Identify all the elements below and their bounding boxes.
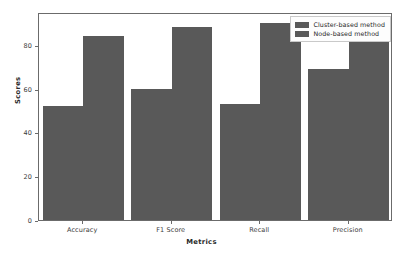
y-tick-label: 40 [2,129,32,137]
y-tick-mark [35,46,38,47]
bar [83,36,124,220]
bar [349,36,390,220]
bar [131,89,172,220]
legend-label: Cluster-based method [313,21,385,28]
y-axis-title: Scores [14,77,22,104]
legend-label: Node-based method [313,30,379,37]
bar [43,106,84,220]
y-tick-label: 80 [2,42,32,50]
legend-item[interactable]: Node-based method [295,29,385,38]
y-tick-mark [35,177,38,178]
x-tick-mark [82,221,83,224]
legend-item[interactable]: Cluster-based method [295,20,385,29]
legend-swatch-icon [295,22,309,28]
x-tick-mark [348,221,349,224]
x-tick-mark [171,221,172,224]
bar [220,104,261,220]
bar [172,27,213,220]
x-axis-title: Metrics [0,238,403,246]
bar [260,23,301,220]
legend-swatch-icon [295,31,309,37]
y-tick-label: 0 [2,217,32,225]
x-tick-label: F1 Score [156,226,185,234]
bar-group [308,14,389,220]
x-tick-label: Recall [249,226,269,234]
legend: Cluster-based methodNode-based method [290,16,391,42]
x-tick-label: Accuracy [67,226,97,234]
bars-layer [39,14,391,220]
x-tick-label: Precision [333,226,363,234]
bar [308,69,349,220]
y-tick-mark [35,90,38,91]
x-tick-mark [259,221,260,224]
bar-group [220,14,301,220]
y-tick-mark [35,221,38,222]
bar-group [131,14,212,220]
bar-group [43,14,124,220]
y-tick-mark [35,133,38,134]
plot-area [38,13,392,221]
bar-chart-figure: 020406080 Scores AccuracyF1 ScoreRecallP… [0,0,403,256]
y-tick-label: 20 [2,173,32,181]
